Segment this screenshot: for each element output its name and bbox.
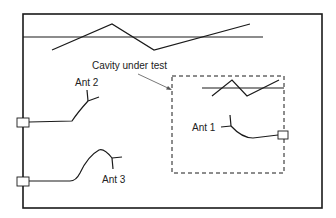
- ant2-connector: [17, 118, 29, 127]
- ant3-connector: [17, 177, 29, 186]
- cavity-label: Cavity under test: [92, 60, 167, 71]
- antenna-1-icon: [221, 115, 278, 138]
- cavity-under-test-box: [172, 76, 284, 173]
- diagram-canvas: Cavity under test Ant 1 Ant 2 Ant 3: [0, 0, 336, 218]
- ant1-connector: [278, 131, 288, 139]
- antenna-2-icon: [29, 90, 99, 122]
- ant3-label: Ant 3: [102, 174, 126, 185]
- arrowhead-icon: [166, 86, 172, 90]
- ant1-label: Ant 1: [192, 122, 216, 133]
- cavity-pointer-arrow: [138, 74, 170, 89]
- ant2-label: Ant 2: [75, 77, 99, 88]
